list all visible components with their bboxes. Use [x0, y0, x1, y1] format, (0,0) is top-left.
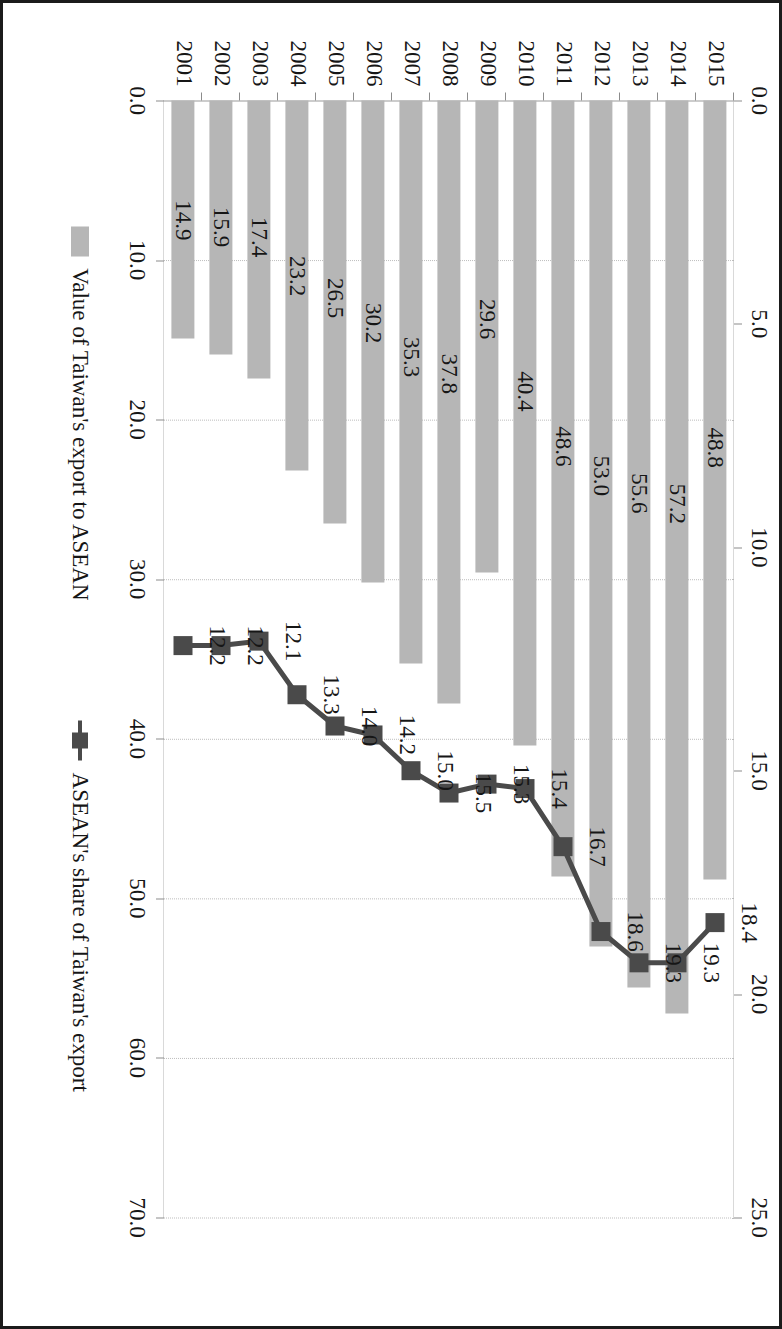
secondary-axis-tick-label: 5.0	[746, 283, 772, 363]
line-marker[interactable]	[630, 953, 649, 972]
category-axis-tick-mark	[581, 92, 582, 100]
primary-axis-tick-mark	[156, 260, 164, 261]
line-data-label: 19.3	[698, 942, 724, 982]
category-axis-tick-mark	[657, 92, 658, 100]
rotated-figure-container: 0.010.020.030.040.050.060.070.0 0.05.010…	[0, 0, 782, 1329]
category-axis-label: 2006	[361, 0, 387, 86]
secondary-axis-tick-label: 10.0	[746, 507, 772, 587]
line-data-label: 15.5	[470, 772, 496, 812]
legend-item-line-series: ASEAN's share of Taiwan's export	[67, 720, 93, 1091]
page-frame: 0.010.020.030.040.050.060.070.0 0.05.010…	[0, 0, 782, 1329]
primary-axis-tick-mark	[156, 898, 164, 899]
line-data-label: 18.6	[622, 911, 648, 951]
chart-legend: Value of Taiwan's export to ASEAN ASEAN'…	[50, 100, 110, 1217]
category-axis-label: 2002	[209, 0, 235, 86]
line-data-label: 12.2	[204, 625, 230, 665]
line-data-label: 12.2	[242, 625, 268, 665]
secondary-axis-tick-mark	[734, 100, 742, 101]
secondary-axis-tick-mark	[734, 770, 742, 771]
line-data-label: 18.4	[736, 902, 762, 942]
line-data-label: 12.1	[280, 621, 306, 661]
line-data-label: 14.2	[394, 714, 420, 754]
category-axis-label: 2008	[437, 0, 463, 86]
primary-axis-tick-mark	[156, 100, 164, 101]
line-square-marker-icon	[70, 720, 90, 760]
primary-axis-tick-mark	[156, 1057, 164, 1058]
category-axis-tick-mark	[695, 92, 696, 100]
category-axis-tick-mark	[315, 92, 316, 100]
category-axis-tick-mark	[277, 92, 278, 100]
primary-axis-tick-label: 40.0	[124, 698, 150, 778]
category-axis-tick-mark	[201, 92, 202, 100]
line-marker[interactable]	[402, 761, 421, 780]
primary-axis-tick-label: 20.0	[124, 379, 150, 459]
legend-label-line-series: ASEAN's share of Taiwan's export	[67, 772, 93, 1091]
category-axis-tick-mark	[429, 92, 430, 100]
secondary-axis-tick-mark	[734, 323, 742, 324]
line-data-label: 19.3	[660, 942, 686, 982]
category-axis-label: 2009	[475, 0, 501, 86]
primary-axis-tick-mark	[156, 579, 164, 580]
plot-area: 0.010.020.030.040.050.060.070.0 0.05.010…	[164, 100, 734, 1217]
secondary-axis-tick-mark	[734, 1217, 742, 1218]
line-marker[interactable]	[174, 636, 193, 655]
line-data-label: 15.4	[546, 768, 572, 808]
secondary-axis-tick-label: 25.0	[746, 1177, 772, 1257]
category-axis-label: 2001	[171, 0, 197, 86]
primary-axis-tick-mark	[156, 738, 164, 739]
category-axis-tick-mark	[619, 92, 620, 100]
line-data-label: 14.0	[356, 705, 382, 745]
category-axis-tick-mark	[239, 92, 240, 100]
category-axis-tick-mark	[353, 92, 354, 100]
category-axis-label: 2013	[627, 0, 653, 86]
category-axis-label: 2011	[551, 0, 577, 86]
line-data-label: 15.3	[508, 763, 534, 803]
primary-axis-tick-mark	[156, 1217, 164, 1218]
legend-item-bar-series: Value of Taiwan's export to ASEAN	[67, 226, 93, 600]
primary-axis-tick-label: 60.0	[124, 1017, 150, 1097]
category-axis-tick-mark	[543, 92, 544, 100]
category-axis-tick-mark	[391, 92, 392, 100]
category-axis-label: 2004	[285, 0, 311, 86]
secondary-axis-tick-mark	[734, 547, 742, 548]
line-marker[interactable]	[592, 922, 611, 941]
line-marker[interactable]	[554, 837, 573, 856]
category-axis-label: 2007	[399, 0, 425, 86]
category-axis-tick-mark	[467, 92, 468, 100]
legend-label-bar-series: Value of Taiwan's export to ASEAN	[67, 268, 93, 600]
secondary-axis-tick-label: 0.0	[746, 60, 772, 140]
category-axis-tick-mark	[505, 92, 506, 100]
category-axis-label: 2003	[247, 0, 273, 86]
primary-axis-tick-label: 50.0	[124, 858, 150, 938]
secondary-axis-tick-label: 20.0	[746, 954, 772, 1034]
line-data-label: 15.0	[432, 750, 458, 790]
category-axis-tick-mark	[733, 92, 734, 100]
primary-axis-tick-label: 30.0	[124, 539, 150, 619]
primary-axis-tick-label: 10.0	[124, 220, 150, 300]
line-data-label: 13.3	[318, 674, 344, 714]
chart-canvas: 0.010.020.030.040.050.060.070.0 0.05.010…	[0, 0, 782, 1329]
secondary-axis-tick-mark	[734, 994, 742, 995]
line-marker[interactable]	[288, 685, 307, 704]
category-axis-label: 2014	[665, 0, 691, 86]
category-axis-label: 2012	[589, 0, 615, 86]
line-data-label: 16.7	[584, 826, 610, 866]
bar-swatch-icon	[71, 226, 89, 256]
line-marker[interactable]	[706, 913, 725, 932]
secondary-axis-tick-label: 15.0	[746, 730, 772, 810]
category-axis-label: 2010	[513, 0, 539, 86]
category-axis-label: 2015	[703, 0, 729, 86]
primary-axis-tick-mark	[156, 419, 164, 420]
primary-axis-tick-label: 0.0	[124, 60, 150, 140]
primary-axis-tick-label: 70.0	[124, 1177, 150, 1257]
category-axis-label: 2005	[323, 0, 349, 86]
line-marker[interactable]	[326, 716, 345, 735]
